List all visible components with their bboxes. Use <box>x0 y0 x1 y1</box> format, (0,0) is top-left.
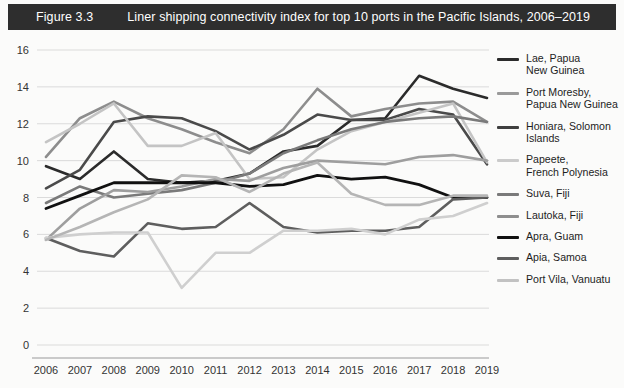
x-tick-label: 2011 <box>204 364 228 376</box>
figure-number: Figure 3.3 <box>36 10 93 24</box>
data-series-layer <box>46 76 487 288</box>
legend-item[interactable]: Honiara, Solomon Islands <box>497 120 624 145</box>
gridlines <box>37 50 489 345</box>
x-tick-label: 2014 <box>305 364 329 376</box>
legend-item-label: Honiara, Solomon Islands <box>526 120 611 145</box>
legend-color-swatch <box>497 126 519 129</box>
x-tick-label: 2009 <box>136 364 160 376</box>
legend-color-swatch <box>497 236 519 239</box>
figure-container: Figure 3.3 Liner shipping connectivity i… <box>0 0 624 388</box>
x-tick-label: 2015 <box>339 364 363 376</box>
legend-item-label: Lae, Papua New Guinea <box>526 52 584 77</box>
y-tick-label: 4 <box>23 265 29 277</box>
series-line <box>46 76 487 183</box>
series-line <box>46 198 487 257</box>
x-tick-label: 2006 <box>34 364 58 376</box>
y-tick-label: 16 <box>17 44 29 56</box>
x-tick-label: 2007 <box>68 364 92 376</box>
x-tick-label: 2018 <box>441 364 465 376</box>
legend-color-swatch <box>497 215 519 218</box>
legend-item[interactable]: Port Vila, Vanuatu <box>497 273 624 285</box>
legend-item-label: Port Vila, Vanuatu <box>526 273 610 285</box>
legend-color-swatch <box>497 193 519 196</box>
legend-color-swatch <box>497 279 519 282</box>
y-tick-label: 2 <box>23 302 29 314</box>
legend-item-label: Apra, Guam <box>526 230 583 242</box>
x-tick-label: 2008 <box>102 364 126 376</box>
x-tick-label: 2019 <box>475 364 499 376</box>
y-tick-label: 14 <box>17 81 29 93</box>
x-tick-label: 2010 <box>169 364 193 376</box>
y-tick-label: 10 <box>17 155 29 167</box>
legend-item[interactable]: Suva, Fiji <box>497 187 624 199</box>
y-tick-label: 6 <box>23 228 29 240</box>
y-tick-label: 0 <box>23 339 29 351</box>
legend-item-label: Suva, Fiji <box>526 187 570 199</box>
legend-color-swatch <box>497 159 519 162</box>
legend-item[interactable]: Lautoka, Fiji <box>497 209 624 221</box>
x-tick-label: 2017 <box>407 364 431 376</box>
legend-item-label: Papeete, French Polynesia <box>526 153 608 178</box>
legend-item-label: Lautoka, Fiji <box>526 209 583 221</box>
x-axis-tick-labels: 2006200720082009201020112012201320142015… <box>34 364 499 376</box>
series-line <box>46 109 487 188</box>
legend-color-swatch <box>497 257 519 260</box>
legend-item[interactable]: Lae, Papua New Guinea <box>497 52 624 77</box>
y-tick-label: 8 <box>23 192 29 204</box>
figure-title-bar: Figure 3.3 Liner shipping connectivity i… <box>8 4 616 30</box>
figure-title: Liner shipping connectivity index for to… <box>127 10 590 24</box>
legend-item[interactable]: Port Moresby, Papua New Guinea <box>497 86 624 111</box>
legend-item-label: Apia, Samoa <box>526 251 587 263</box>
legend-item[interactable]: Apra, Guam <box>497 230 624 242</box>
legend-color-swatch <box>497 58 519 61</box>
legend-item-label: Port Moresby, Papua New Guinea <box>526 86 618 111</box>
x-tick-label: 2013 <box>271 364 295 376</box>
x-tick-label: 2012 <box>237 364 261 376</box>
y-axis-tick-labels: 0246810121416 <box>17 44 29 351</box>
x-tick-label: 2016 <box>373 364 397 376</box>
legend-item[interactable]: Papeete, French Polynesia <box>497 153 624 178</box>
legend-color-swatch <box>497 92 519 95</box>
y-tick-label: 12 <box>17 118 29 130</box>
chart-legend: Lae, Papua New GuineaPort Moresby, Papua… <box>497 52 624 294</box>
legend-item[interactable]: Apia, Samoa <box>497 251 624 263</box>
